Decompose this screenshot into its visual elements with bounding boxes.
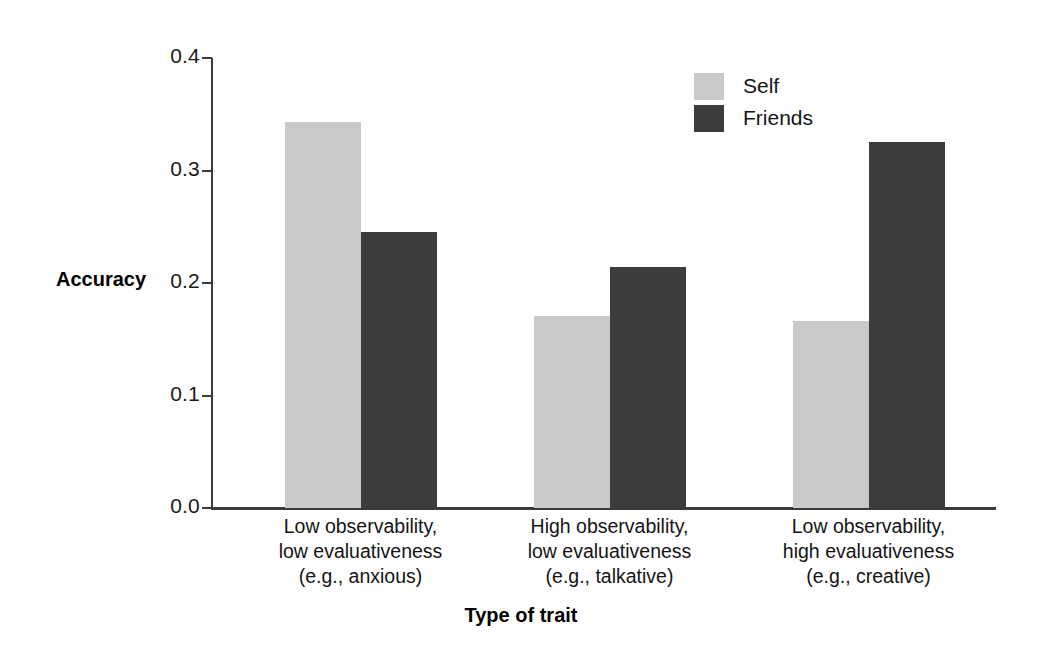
legend-label-friends: Friends — [743, 106, 813, 130]
bar-self-group-3 — [793, 321, 869, 508]
y-tick-label: 0.2 — [140, 269, 200, 293]
legend-label-self: Self — [743, 74, 779, 98]
y-tick-label: 0.0 — [140, 494, 200, 518]
legend-swatch-friends-icon — [694, 105, 724, 132]
legend-swatch-self-icon — [694, 73, 724, 100]
bar-friends-group-2 — [610, 267, 686, 508]
x-axis-title: Type of trait — [0, 604, 1042, 627]
y-tick-label: 0.3 — [140, 157, 200, 181]
bar-self-group-2 — [534, 316, 610, 508]
x-axis-category-label-3: Low observability, high evaluativeness (… — [739, 514, 999, 589]
x-axis-category-label-2: High observability, low evaluativeness (… — [480, 514, 740, 589]
legend: Self Friends — [694, 70, 813, 134]
legend-item-friends: Friends — [694, 102, 813, 134]
bar-friends-group-1 — [361, 232, 437, 508]
legend-item-self: Self — [694, 70, 813, 102]
y-tick-label: 0.4 — [140, 44, 200, 68]
y-axis-title: Accuracy — [56, 268, 146, 291]
bar-friends-group-3 — [869, 142, 945, 508]
bar-chart-figure: Accuracy 0.40.30.20.10.0 Low observabili… — [0, 0, 1042, 651]
y-tick-label: 0.1 — [140, 382, 200, 406]
plot-area — [212, 58, 995, 508]
x-axis-category-label-1: Low observability, low evaluativeness (e… — [231, 514, 491, 589]
bar-self-group-1 — [285, 122, 361, 508]
